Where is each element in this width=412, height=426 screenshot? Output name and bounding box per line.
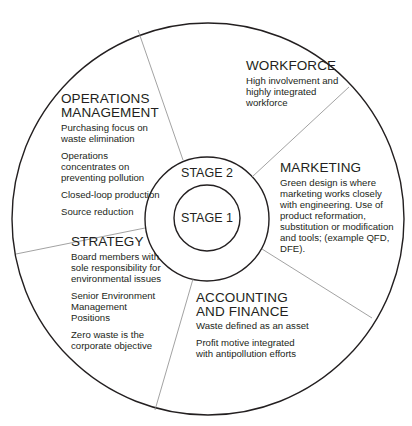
operations-item: waste elimination bbox=[61, 133, 160, 144]
operations-title-line: MANAGEMENT bbox=[61, 106, 160, 120]
strategy-item: sole responsibility for bbox=[71, 262, 161, 273]
marketing-text-line: marketing works closely bbox=[280, 188, 394, 199]
strategy-item: Positions bbox=[71, 312, 161, 323]
marketing-text-line: with engineering. Use of bbox=[280, 199, 394, 210]
strategy-item: environmental issues bbox=[71, 273, 161, 284]
accounting-item: with antipollution efforts bbox=[196, 348, 309, 359]
strategy-item: Board members with bbox=[71, 251, 161, 262]
accounting-section: ACCOUNTING AND FINANCE Waste defined as … bbox=[196, 291, 309, 359]
marketing-text-line: DFE). bbox=[280, 243, 394, 254]
strategy-item: Management bbox=[71, 301, 161, 312]
operations-section: OPERATIONS MANAGEMENT Purchasing focus o… bbox=[61, 92, 160, 217]
accounting-item: Profit motive integrated bbox=[196, 337, 309, 348]
accounting-title-line: AND FINANCE bbox=[196, 305, 309, 319]
accounting-title-line: ACCOUNTING bbox=[196, 291, 309, 305]
strategy-section: STRATEGY Board members with sole respons… bbox=[71, 235, 161, 351]
stage-1-label: STAGE 1 bbox=[167, 211, 247, 225]
workforce-text-line: highly integrated bbox=[246, 86, 338, 97]
strategy-item: Zero waste is the bbox=[71, 329, 161, 340]
operations-item: preventing pollution bbox=[61, 172, 160, 183]
operations-title-line: OPERATIONS bbox=[61, 92, 160, 106]
workforce-text-line: workforce bbox=[246, 97, 338, 108]
marketing-text-line: Green design is where bbox=[280, 177, 394, 188]
operations-item: Source reduction bbox=[61, 206, 160, 217]
workforce-text-line: High involvement and bbox=[246, 75, 338, 86]
strategy-item: Senior Environment bbox=[71, 290, 161, 301]
accounting-item: Waste defined as an asset bbox=[196, 320, 309, 331]
workforce-section: WORKFORCE High involvement and highly in… bbox=[246, 59, 338, 108]
marketing-title: MARKETING bbox=[280, 161, 394, 175]
operations-item: Operations bbox=[61, 150, 160, 161]
operations-item: Closed-loop production bbox=[61, 189, 160, 200]
workforce-title: WORKFORCE bbox=[246, 59, 338, 73]
marketing-text-line: and tools; (example QFD, bbox=[280, 232, 394, 243]
operations-item: concentrates on bbox=[61, 161, 160, 172]
operations-item: Purchasing focus on bbox=[61, 122, 160, 133]
marketing-text-line: substitution or modification bbox=[280, 221, 394, 232]
strategy-item: corporate objective bbox=[71, 340, 161, 351]
stage-2-label: STAGE 2 bbox=[167, 166, 247, 180]
marketing-section: MARKETING Green design is where marketin… bbox=[280, 161, 394, 254]
marketing-text-line: product reformation, bbox=[280, 210, 394, 221]
strategy-title: STRATEGY bbox=[71, 235, 161, 249]
